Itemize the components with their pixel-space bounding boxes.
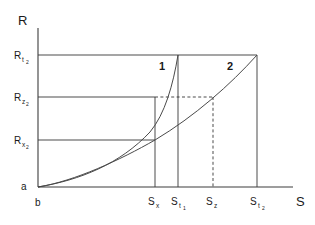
x-axis-title: S bbox=[296, 194, 305, 209]
origin-label-a: a bbox=[21, 181, 27, 192]
y-tick-sub2-Rt2: 2 bbox=[26, 59, 29, 65]
reference-lines bbox=[38, 55, 257, 187]
x-tick-sub-Sx: x bbox=[156, 202, 160, 209]
x-tick-sub2-St1: 1 bbox=[183, 205, 186, 211]
curve-1 bbox=[38, 55, 178, 187]
data-curves bbox=[38, 55, 257, 187]
y-tick-label-Rx2: R x 2 bbox=[14, 135, 29, 150]
origin-label-b: b bbox=[35, 197, 41, 208]
x-tick-base-Sx: S bbox=[148, 196, 155, 207]
stimulus-response-plot: R S a b R t 2 R z 2 R x 2 S x S t 1 bbox=[0, 0, 315, 225]
x-tick-sub2-St2: 2 bbox=[262, 205, 265, 211]
x-tick-label-Sx: S x bbox=[148, 196, 160, 209]
x-tick-base-Sz: S bbox=[206, 196, 213, 207]
y-tick-base-Rt2: R bbox=[14, 50, 21, 61]
x-tick-base-St2: S bbox=[250, 196, 257, 207]
curve-label-1: 1 bbox=[159, 60, 165, 72]
y-tick-base-Rz2: R bbox=[14, 92, 21, 103]
y-tick-sub-Rt2: t bbox=[22, 56, 24, 63]
x-tick-sub-St2: t bbox=[258, 202, 260, 209]
y-tick-sub-Rz2: z bbox=[22, 98, 25, 105]
y-tick-sub2-Rx2: 2 bbox=[26, 144, 29, 150]
x-tick-base-St1: S bbox=[171, 196, 178, 207]
curve-label-2: 2 bbox=[227, 60, 233, 72]
curve-2 bbox=[38, 55, 257, 187]
x-tick-label-St2: S t 2 bbox=[250, 196, 265, 211]
x-tick-label-Sz: S z bbox=[206, 196, 217, 209]
x-tick-sub-Sz: z bbox=[214, 202, 217, 209]
y-tick-label-Rz2: R z 2 bbox=[14, 92, 29, 107]
x-tick-sub-St1: t bbox=[179, 202, 181, 209]
y-tick-base-Rx2: R bbox=[14, 135, 21, 146]
x-tick-label-St1: S t 1 bbox=[171, 196, 186, 211]
y-tick-sub2-Rz2: 2 bbox=[26, 101, 29, 107]
axes bbox=[38, 28, 293, 187]
y-axis-title: R bbox=[18, 13, 27, 28]
y-tick-label-Rt2: R t 2 bbox=[14, 50, 29, 65]
chart-figure: R S a b R t 2 R z 2 R x 2 S x S t 1 bbox=[0, 0, 315, 225]
